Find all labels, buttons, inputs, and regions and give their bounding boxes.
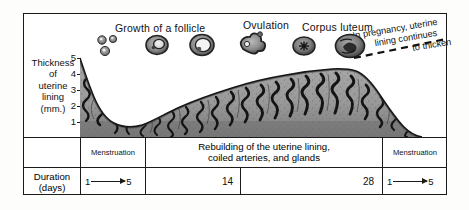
- duration-row-header: Duration (days): [25, 171, 79, 193]
- table-divider-phase-right: [382, 137, 383, 195]
- y-tick-label-5: 5: [64, 52, 76, 63]
- duration-left-arrow-icon: [91, 181, 125, 182]
- duration-header-line-2: (days): [25, 182, 79, 193]
- label-ovulation: Ovulation: [243, 19, 289, 31]
- duration-right-to: 5: [428, 176, 433, 187]
- menstrual-cycle-figure: Thickness of uterine lining (mm.) 5 4 3 …: [0, 0, 469, 210]
- phase-label-rebuilding-line-1: Rebuilding of the uterine lining,: [146, 141, 382, 152]
- duration-left-range: 1 5: [85, 176, 141, 187]
- duration-right-range: 1 5: [387, 176, 443, 187]
- corpus-luteum-small-icon: [293, 37, 315, 55]
- duration-header-line-1: Duration: [25, 171, 79, 182]
- phase-label-rebuilding: Rebuilding of the uterine lining, coiled…: [146, 141, 382, 163]
- duration-day-14: 14: [222, 176, 233, 187]
- phase-label-menstruation-left: Menstruation: [91, 148, 135, 157]
- duration-left-to: 5: [126, 176, 131, 187]
- table-divider-left: [80, 137, 81, 195]
- y-tick-label-3: 3: [64, 84, 76, 95]
- y-tick-label-2: 2: [64, 100, 76, 111]
- duration-right-arrow-icon: [393, 181, 427, 182]
- y-tick-label-1: 1: [64, 116, 76, 127]
- ovulation-burst-icon: [241, 32, 265, 54]
- follicle-cluster-icon: [98, 35, 117, 55]
- lining-tissue-body: [80, 57, 447, 137]
- growing-follicle-icon: [146, 36, 168, 55]
- duration-day-28: 28: [363, 176, 374, 187]
- phase-label-rebuilding-line-2: coiled arteries, and glands: [146, 152, 382, 163]
- phase-label-menstruation-right: Menstruation: [393, 148, 437, 157]
- y-tick-label-4: 4: [64, 68, 76, 79]
- duration-left-from: 1: [85, 176, 90, 187]
- uterine-lining-cross-section: [80, 57, 447, 137]
- duration-right-from: 1: [387, 176, 392, 187]
- table-divider-day14: [240, 167, 241, 195]
- mature-follicle-icon: [190, 35, 214, 56]
